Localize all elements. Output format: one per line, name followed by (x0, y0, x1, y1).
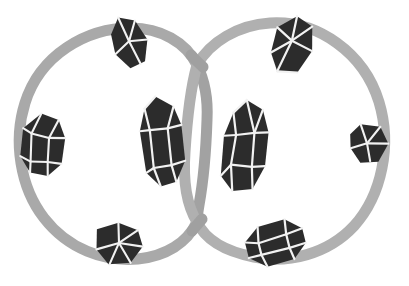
rings-and-crystals-illustration (0, 0, 409, 286)
illustration-canvas (0, 0, 409, 286)
lower-crossing-overlap (192, 219, 202, 231)
